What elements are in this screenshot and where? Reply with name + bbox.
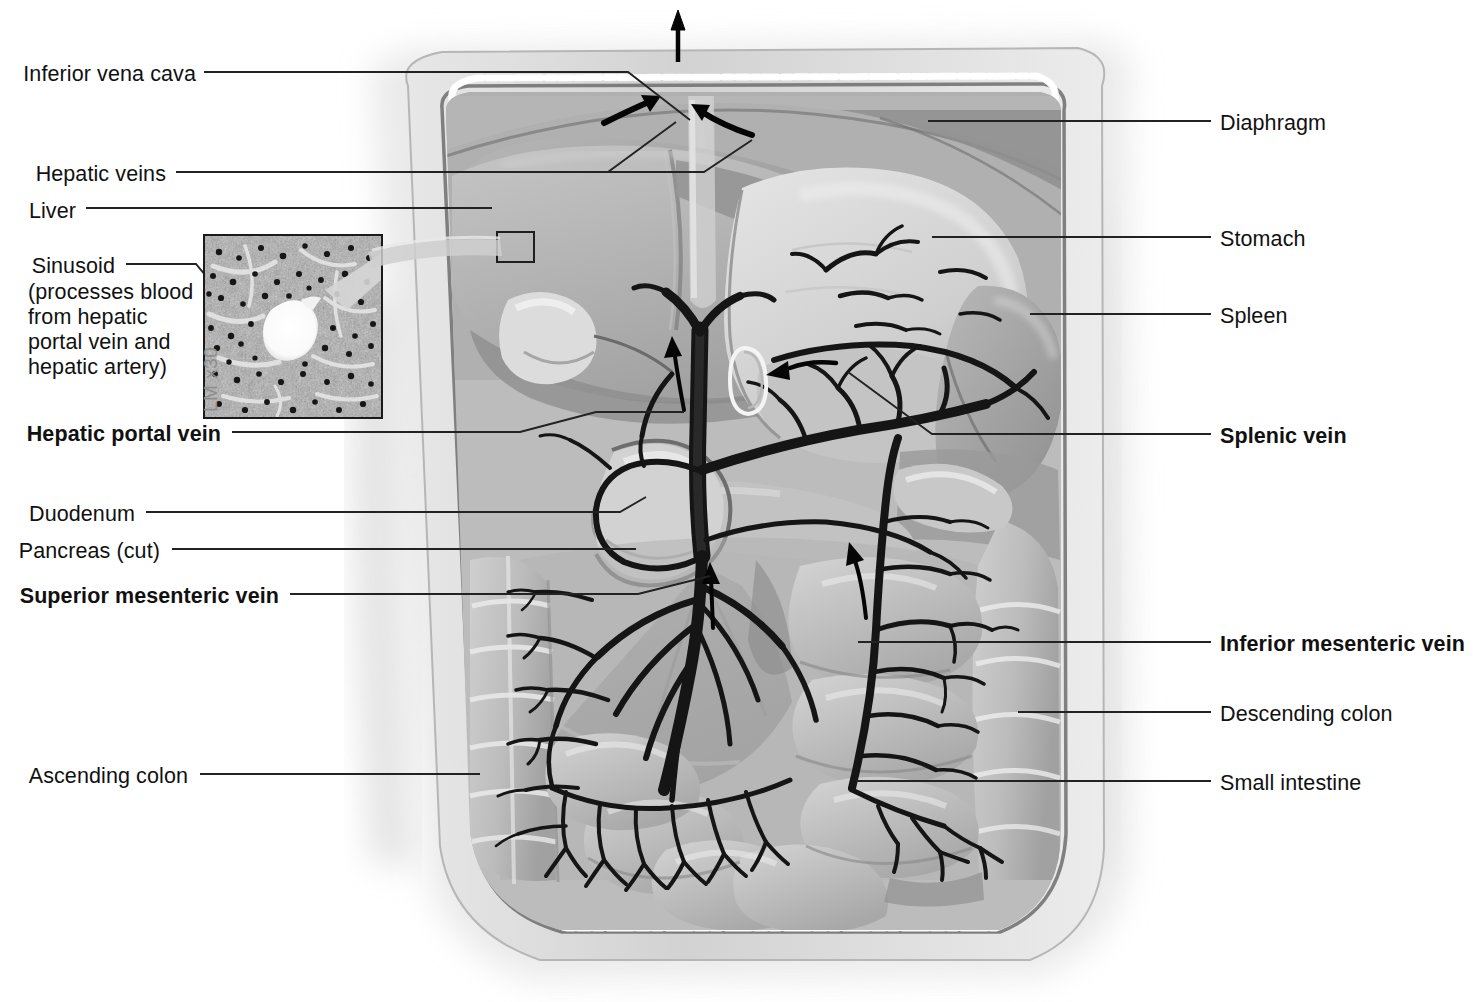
label-hepatic-portal-vein: Hepatic portal vein: [27, 422, 221, 448]
label-superior-mesenteric-vein: Superior mesenteric vein: [20, 584, 279, 610]
label-diaphragm: Diaphragm: [1220, 111, 1326, 137]
label-ascending-colon: Ascending colon: [29, 764, 188, 790]
label-inferior-mesenteric-vein: Inferior mesenteric vein: [1220, 632, 1465, 658]
label-sinusoid: Sinusoid: [32, 254, 115, 280]
label-spleen: Spleen: [1220, 304, 1288, 330]
label-small-intestine: Small intestine: [1220, 771, 1361, 797]
label-inferior-vena-cava: Inferior vena cava: [23, 62, 196, 88]
label-sinusoid-description: (processes blood from hepatic portal vei…: [28, 280, 198, 380]
figure-canvas: LM x30 Inferior vena cava Hepatic veins …: [0, 0, 1473, 1002]
micrograph-callout-ribbon: [0, 0, 1473, 1002]
micrograph-magnification-label: LM x30: [200, 347, 222, 412]
label-pancreas-cut: Pancreas (cut): [19, 539, 160, 565]
label-splenic-vein: Splenic vein: [1220, 424, 1347, 450]
label-descending-colon: Descending colon: [1220, 702, 1393, 728]
label-liver: Liver: [29, 199, 76, 225]
label-stomach: Stomach: [1220, 227, 1306, 253]
label-hepatic-veins: Hepatic veins: [36, 162, 166, 188]
label-duodenum: Duodenum: [29, 502, 135, 528]
